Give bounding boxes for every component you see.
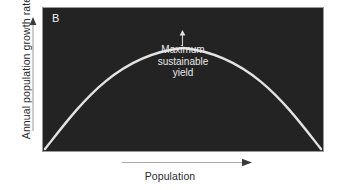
annotation-line-2: sustainable: [103, 56, 263, 68]
x-axis-group: Population: [0, 152, 340, 190]
annotation-label: Maximum sustainable yield: [103, 44, 263, 79]
annotation-line-3: yield: [103, 67, 263, 79]
figure-panel-b: Annual population growth rate B Maximum …: [0, 0, 340, 190]
x-axis-label: Population: [0, 170, 340, 182]
arrow-up-icon: [27, 17, 39, 133]
plot-panel: B Maximum sustainable yield: [42, 7, 324, 152]
annotation-line-1: Maximum: [103, 44, 263, 56]
arrow-right-icon: [122, 157, 252, 168]
y-axis-group: Annual population growth rate: [0, 0, 42, 160]
